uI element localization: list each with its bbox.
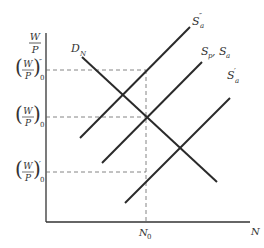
svg-text:0: 0: [40, 176, 44, 184]
svg-text:(: (: [15, 55, 23, 79]
svg-text:P: P: [24, 71, 32, 81]
diagram-svg: W P ( W P ) ″ 0 ( W P ) 0 ( W P ) ′ 0 D …: [0, 0, 264, 248]
demand-curve: [82, 57, 217, 182]
svg-text:0: 0: [40, 121, 44, 129]
supply-low-label: S a ′: [227, 66, 239, 85]
svg-text:′: ′: [234, 66, 236, 75]
supply-curve-low: [125, 98, 230, 203]
svg-text:W: W: [23, 106, 33, 116]
svg-text:, S: , S: [212, 45, 227, 58]
svg-text:(: (: [15, 102, 23, 126]
svg-text:0: 0: [147, 233, 151, 241]
svg-text:a: a: [235, 77, 239, 85]
svg-text:P: P: [24, 173, 32, 183]
supply-high-label: S a ″: [192, 11, 204, 30]
supply-curve-mid: [102, 62, 202, 163]
level-label-high: ( W P ) ″ 0: [15, 55, 44, 82]
svg-text:P: P: [31, 44, 39, 55]
svg-text:W: W: [30, 31, 41, 42]
level-label-equilibrium: ( W P ) 0: [15, 102, 44, 129]
svg-text:W: W: [23, 59, 33, 69]
svg-text:D: D: [70, 42, 80, 55]
supply-curve-high: [80, 27, 190, 138]
svg-text:W: W: [23, 161, 33, 171]
demand-label: D N: [70, 42, 87, 58]
svg-text:′: ′: [39, 159, 41, 168]
n0-tick-label: N 0: [138, 227, 151, 241]
svg-text:P: P: [24, 118, 32, 128]
svg-text:″: ″: [199, 11, 202, 20]
level-label-low: ( W P ) ′ 0: [15, 157, 44, 184]
svg-text:″: ″: [39, 57, 42, 66]
x-axis-label: N: [250, 226, 261, 237]
y-axis-label: W P: [29, 31, 41, 55]
svg-text:N: N: [79, 50, 87, 58]
supply-mid-label: S p , S a: [201, 45, 230, 60]
svg-text:a: a: [200, 22, 204, 30]
svg-text:(: (: [15, 157, 23, 181]
labor-market-diagram: W P ( W P ) ″ 0 ( W P ) 0 ( W P ) ′ 0 D …: [0, 0, 264, 248]
svg-text:a: a: [226, 52, 230, 60]
svg-text:0: 0: [40, 74, 44, 82]
